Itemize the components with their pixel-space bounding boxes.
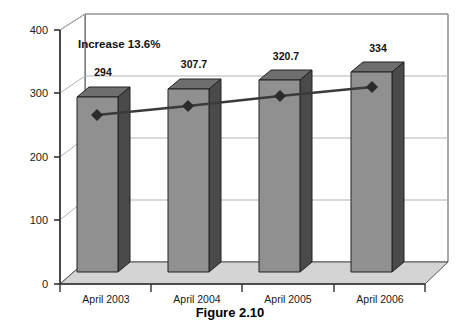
bar-side-face: [300, 70, 312, 272]
bar-side-face: [392, 62, 404, 272]
chart-canvas: 0 100 200 300 400: [0, 0, 461, 320]
y-tick-label-400: 400: [30, 24, 48, 36]
data-label-april-2006: 334: [369, 42, 387, 54]
bar-group-april-2005[interactable]: [259, 70, 312, 272]
y-tick-label-100: 100: [30, 214, 48, 226]
data-label-april-2005: 320.7: [273, 50, 299, 62]
x-axis-ticks: [60, 284, 425, 292]
data-label-april-2003: 294: [94, 66, 112, 78]
y-axis-ticks: [54, 30, 60, 284]
bar-side-face: [209, 79, 221, 272]
x-tick-label-april-2005: April 2005: [264, 293, 311, 305]
y-tick-label-300: 300: [30, 87, 48, 99]
increase-annotation: Increase 13.6%: [78, 38, 160, 50]
x-tick-label-april-2004: April 2004: [173, 293, 220, 305]
bar-group-april-2006[interactable]: [351, 62, 404, 272]
bar-front-face: [77, 97, 118, 272]
figure-container: 0 100 200 300 400: [0, 0, 461, 320]
x-tick-label-april-2003: April 2003: [82, 293, 129, 305]
bar-front-face: [351, 72, 392, 272]
bar-side-face: [118, 87, 130, 272]
data-label-april-2004: 307.7: [181, 58, 207, 70]
y-tick-label-200: 200: [30, 151, 48, 163]
y-tick-label-0: 0: [42, 278, 48, 290]
bar-front-face: [168, 89, 209, 272]
x-tick-label-april-2006: April 2006: [356, 293, 403, 305]
bar-front-face: [259, 80, 300, 272]
figure-caption: Figure 2.10: [196, 305, 265, 320]
